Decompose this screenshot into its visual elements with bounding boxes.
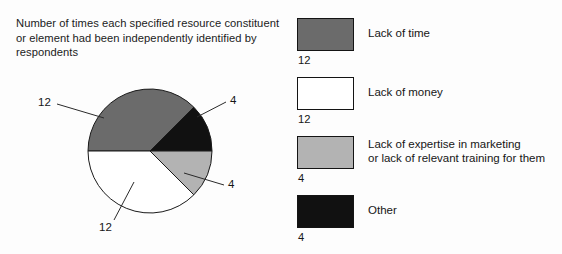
legend-swatch-icon-lack-of-expertise	[297, 136, 354, 169]
legend-item-lack-of-time[interactable]: 12 Lack of time	[297, 18, 555, 68]
legend-item-lack-of-expertise[interactable]: 4 Lack of expertise in marketing or lack…	[297, 136, 555, 186]
legend-item-other[interactable]: 4 Other	[297, 195, 555, 245]
legend-item-lack-of-money[interactable]: 12 Lack of money	[297, 77, 555, 127]
legend-label-lack-of-expertise: Lack of expertise in marketing or lack o…	[368, 137, 545, 166]
pie-chart-svg	[0, 60, 290, 254]
page-title: Number of times each specified resource …	[16, 16, 284, 60]
legend-label-lack-of-money: Lack of money	[368, 85, 443, 99]
legend: 12 Lack of time 12 Lack of money 4 Lack …	[297, 18, 555, 254]
legend-label-lack-of-time: Lack of time	[368, 26, 430, 40]
legend-swatch-icon-lack-of-time	[297, 18, 354, 51]
legend-swatch-icon-lack-of-money	[297, 77, 354, 110]
pie-label-lack-of-expertise: 4	[228, 178, 234, 190]
leader-line-lack-of-time	[57, 104, 104, 118]
pie-chart: 12 4 4 12	[0, 60, 290, 254]
pie-label-other: 4	[230, 94, 236, 106]
legend-count-lack-of-time: 12	[298, 54, 310, 67]
pie-label-lack-of-time: 12	[38, 96, 51, 108]
pie-label-lack-of-money: 12	[99, 221, 112, 233]
legend-count-other: 4	[298, 231, 304, 244]
legend-count-lack-of-expertise: 4	[298, 172, 304, 185]
chart-page: Number of times each specified resource …	[0, 0, 562, 254]
legend-swatch-icon-other	[297, 195, 354, 228]
legend-label-other: Other	[368, 203, 397, 217]
legend-count-lack-of-money: 12	[298, 113, 310, 126]
leader-line-other	[197, 102, 226, 117]
